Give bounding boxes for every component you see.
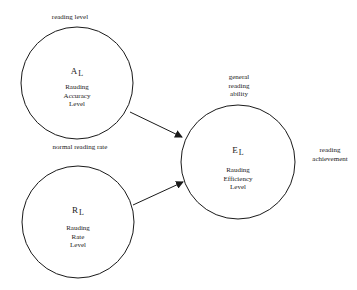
accuracy-symbol: AL — [57, 66, 97, 77]
reading-level-label: reading level — [40, 13, 100, 21]
accuracy-symbol-subscript: L — [78, 69, 83, 78]
accuracy-line-2: Accuracy — [47, 92, 107, 101]
general-reading-ability-label: general reading ability — [214, 73, 264, 99]
accuracy-node-text: Rauding Accuracy Level — [47, 83, 107, 109]
efficiency-node-text: Rauding Efficiency Level — [208, 166, 268, 192]
rate-line-3: Level — [48, 241, 108, 250]
rate-line-1: Rauding — [48, 224, 108, 233]
normal-reading-rate-label: normal reading rate — [40, 143, 120, 151]
efficiency-symbol: EL — [218, 145, 258, 156]
rate-node-text: Rauding Rate Level — [48, 224, 108, 250]
efficiency-line-1: Rauding — [208, 166, 268, 175]
rate-symbol-letter: R — [72, 205, 78, 215]
achievement-line-2: achievement — [305, 155, 355, 164]
ability-line-2: reading — [214, 82, 264, 91]
reading-achievement-label: reading achievement — [305, 146, 355, 163]
rate-symbol-subscript: L — [79, 208, 84, 217]
ability-line-3: ability — [214, 90, 264, 99]
efficiency-symbol-subscript: L — [239, 148, 244, 157]
efficiency-line-2: Efficiency — [208, 175, 268, 184]
accuracy-line-1: Rauding — [47, 83, 107, 92]
efficiency-node-circle — [181, 105, 295, 219]
ability-line-1: general — [214, 73, 264, 82]
arrow-accuracy-to-efficiency — [130, 112, 182, 137]
arrow-rate-to-efficiency — [133, 182, 183, 205]
rate-symbol: RL — [58, 205, 98, 216]
efficiency-symbol-letter: E — [232, 145, 238, 155]
rate-line-2: Rate — [48, 233, 108, 242]
accuracy-symbol-letter: A — [71, 66, 78, 76]
achievement-line-1: reading — [305, 146, 355, 155]
rate-node-circle — [22, 166, 134, 278]
efficiency-line-3: Level — [208, 183, 268, 192]
accuracy-line-3: Level — [47, 100, 107, 109]
